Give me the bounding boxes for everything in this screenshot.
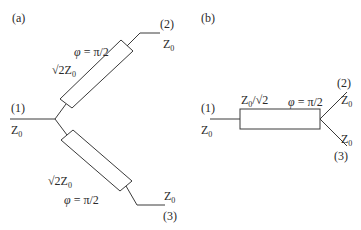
a-port1-number: (1) xyxy=(11,102,25,114)
b-line-phase: φ = π/2 xyxy=(288,96,323,108)
b-port2-number: (2) xyxy=(337,77,351,89)
b-port3-impedance: Z0 xyxy=(341,133,352,150)
a-lower-stub-in xyxy=(55,119,67,135)
a-upper-phase: φ = π/2 xyxy=(74,46,109,58)
a-lower-stub-out xyxy=(126,186,137,205)
panel-b-label: (b) xyxy=(201,12,215,24)
a-port2-number: (2) xyxy=(160,18,174,30)
b-line-impedance: Z0/√2 xyxy=(241,94,268,111)
a-lower-impedance: √2Z0 xyxy=(48,175,72,192)
b-port1-number: (1) xyxy=(201,102,215,114)
a-port2-impedance: Z0 xyxy=(163,38,174,55)
b-port1-impedance: Z0 xyxy=(201,124,212,141)
panel-a-label: (a) xyxy=(12,12,25,24)
a-upper-stub-in xyxy=(55,104,66,119)
a-lower-phase: φ = π/2 xyxy=(64,194,99,206)
a-port3-number: (3) xyxy=(163,210,177,222)
a-port1-impedance: Z0 xyxy=(11,124,22,141)
a-upper-stub-out xyxy=(127,33,140,46)
b-port2-impedance: Z0 xyxy=(341,94,352,111)
a-port3-impedance: Z0 xyxy=(164,190,175,207)
circuit-diagram xyxy=(0,0,361,230)
b-transmission-line xyxy=(240,109,320,129)
b-port3-number: (3) xyxy=(334,150,348,162)
a-upper-impedance: √2Z0 xyxy=(52,64,76,81)
